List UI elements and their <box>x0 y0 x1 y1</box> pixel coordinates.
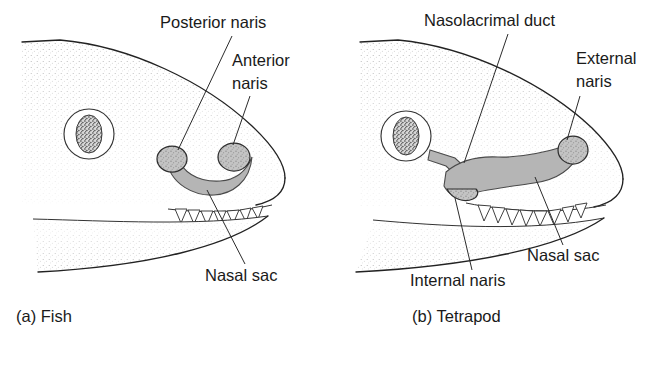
figure-canvas: Posterior naris Anterior naris Nasal sac… <box>0 0 669 366</box>
label-internal-naris: Internal naris <box>410 271 505 289</box>
label-external-naris: External <box>576 49 637 67</box>
anatomy-figure: Posterior naris Anterior naris Nasal sac… <box>0 0 669 366</box>
fish-lower-jaw-fade <box>33 216 268 272</box>
label-posterior-naris: Posterior naris <box>160 13 266 31</box>
label-anterior-naris-line2: naris <box>232 74 268 92</box>
tetrapod-external-naris <box>558 136 588 164</box>
label-external-naris-line2: naris <box>576 72 612 90</box>
caption-fish: (a) Fish <box>16 307 72 325</box>
fish-panel: Posterior naris Anterior naris Nasal sac… <box>16 13 290 325</box>
tetrapod-eye-pupil <box>393 117 419 155</box>
fish-anterior-naris-shape <box>218 143 250 171</box>
tetrapod-panel: Nasolacrimal duct External naris Nasal s… <box>356 11 637 325</box>
fish-posterior-naris-shape <box>157 146 187 172</box>
caption-tetrapod: (b) Tetrapod <box>412 307 501 325</box>
tetrapod-eye <box>381 111 431 161</box>
label-anterior-naris: Anterior <box>232 51 290 69</box>
fish-lower-jaw <box>33 216 268 272</box>
label-fish-nasal-sac: Nasal sac <box>205 266 277 284</box>
tetrapod-external-naris-shape <box>558 136 588 164</box>
fish-eye <box>64 109 114 159</box>
label-tetrapod-nasal-sac: Nasal sac <box>527 246 599 264</box>
fish-eye-pupil <box>76 115 102 153</box>
fish-posterior-naris <box>157 146 187 172</box>
fish-anterior-naris <box>218 143 250 171</box>
label-nasolacrimal-duct: Nasolacrimal duct <box>424 11 556 29</box>
